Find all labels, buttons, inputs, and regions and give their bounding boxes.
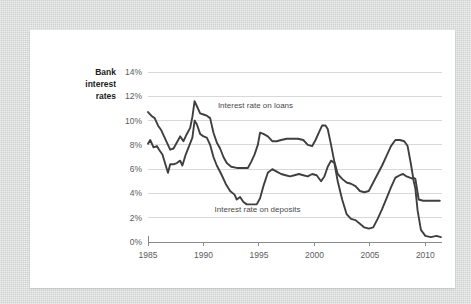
- y-tick-label: 2%: [130, 213, 143, 223]
- y-tick-label: 6%: [130, 164, 143, 174]
- screenshot-page: 0%2%4%6%8%10%12%14% 19851990199520002005…: [0, 0, 471, 304]
- chart-title-line: rates: [96, 91, 117, 101]
- x-tick-label: 2010: [416, 250, 435, 260]
- x-tick-label: 1995: [249, 250, 268, 260]
- bank-interest-rates-chart: 0%2%4%6%8%10%12%14% 19851990199520002005…: [30, 30, 455, 288]
- chart-card: 0%2%4%6%8%10%12%14% 19851990199520002005…: [30, 30, 455, 288]
- x-tick-label: 1985: [139, 250, 158, 260]
- axes-group: [148, 236, 442, 242]
- chart-title-line: interest: [85, 79, 116, 89]
- x-tick-label: 2000: [305, 250, 324, 260]
- y-tick-label: 0%: [130, 237, 143, 247]
- x-tick-label: 1990: [194, 250, 213, 260]
- chart-title-line: Bank: [95, 67, 116, 77]
- gridlines-group: [148, 72, 442, 218]
- y-tick-label: 14%: [125, 67, 142, 77]
- y-tick-label: 8%: [130, 140, 143, 150]
- y-tick-label: 4%: [130, 188, 143, 198]
- x-tick-label: 2005: [360, 250, 379, 260]
- chart-svg: 0%2%4%6%8%10%12%14% 19851990199520002005…: [30, 30, 455, 288]
- series-annotation-label: Interest rate on deposits: [215, 205, 301, 214]
- series-annotation-label: Interest rate on loans: [218, 101, 293, 110]
- y-tick-label: 12%: [125, 91, 142, 101]
- x-tick-labels-group: 198519901995200020052010: [139, 242, 436, 260]
- series-line: [148, 101, 440, 201]
- y-tick-labels-group: 0%2%4%6%8%10%12%14%: [125, 67, 142, 247]
- chart-title-group: Bankinterestrates: [85, 67, 116, 101]
- series-annotations-group: Interest rate on loansInterest rate on d…: [215, 101, 301, 214]
- y-tick-label: 10%: [125, 116, 142, 126]
